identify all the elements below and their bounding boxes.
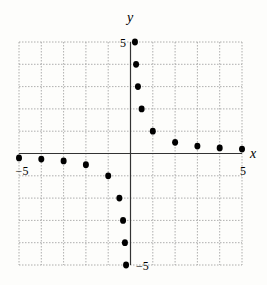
data-point [38,156,44,163]
data-point [132,39,138,46]
x-axis-label: x [249,146,257,161]
data-point [16,155,22,162]
data-point [217,145,223,152]
data-point [194,143,200,150]
data-point [61,158,67,165]
x-tick-max: 5 [240,164,246,178]
data-point [172,139,178,146]
data-point [239,146,245,153]
data-point [135,83,141,90]
data-point [133,61,139,68]
axes [19,42,242,265]
y-tick-max: 5 [120,36,126,50]
data-point [139,106,145,113]
x-tick-min: −5 [16,164,29,178]
y-tick-min: −5 [136,259,149,273]
data-point [116,195,122,202]
data-point [122,239,128,246]
scatter-chart: y x 5 −5 −5 5 [0,0,267,285]
data-point [123,262,129,269]
data-point [120,217,126,224]
data-point [105,172,111,179]
y-axis-label: y [125,10,134,25]
data-point [150,128,156,135]
data-point [83,161,89,168]
